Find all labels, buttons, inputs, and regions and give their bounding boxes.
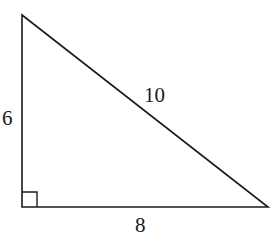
triangle-shape xyxy=(22,15,268,207)
vertical-leg-label: 6 xyxy=(2,106,13,130)
triangle-figure: 6 10 8 xyxy=(0,0,275,242)
right-angle-marker xyxy=(22,192,37,207)
horizontal-leg-label: 8 xyxy=(135,213,146,237)
hypotenuse-label: 10 xyxy=(144,83,165,107)
right-triangle-diagram: 6 10 8 xyxy=(0,0,275,242)
